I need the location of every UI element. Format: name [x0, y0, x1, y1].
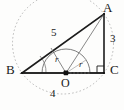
vertex-point-c — [103, 72, 105, 74]
radius-label-c: r — [79, 60, 83, 69]
side-label-ab: 5 — [51, 27, 57, 38]
right-angle-marker — [97, 66, 104, 73]
incentre-point — [64, 71, 69, 76]
side-label-ac: 3 — [110, 33, 116, 44]
segment-a-o — [66, 14, 104, 73]
vertex-label-c: C — [110, 63, 119, 76]
side-label-bc: 4 — [50, 88, 56, 99]
vertex-label-b: B — [6, 63, 15, 76]
radius-to-ac — [66, 60, 86, 73]
vertex-label-a: A — [103, 1, 112, 14]
geometry-figure: A B C O 5 3 4 r r — [0, 0, 124, 110]
triangle-abc — [22, 14, 104, 73]
figure-canvas — [0, 0, 124, 110]
vertex-point-b — [21, 72, 23, 74]
incentre-label-o: O — [61, 77, 70, 89]
radius-label-ab: r — [55, 55, 59, 64]
